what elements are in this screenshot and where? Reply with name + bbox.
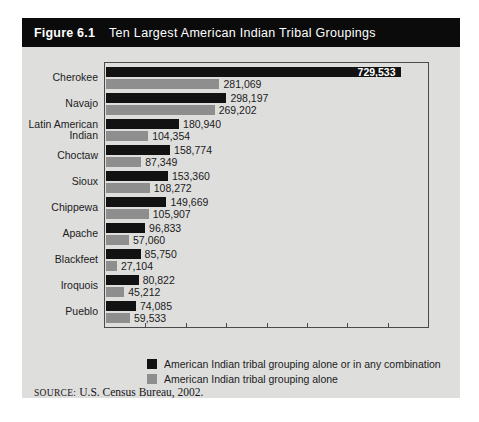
source-note: SOURCE:U.S. Census Bureau, 2002. — [34, 386, 204, 398]
bar-value-label: 74,085 — [140, 300, 172, 312]
x-axis-tick — [186, 323, 187, 327]
bar-value-label: 87,349 — [145, 156, 177, 168]
bar-fill — [106, 119, 179, 129]
bar-fill — [106, 223, 145, 233]
category-label: Sioux — [6, 169, 98, 195]
bar-fill — [106, 313, 130, 323]
chart-bar: 281,069 — [106, 79, 219, 89]
chart-bar: 104,354 — [106, 131, 148, 141]
category-label: Navajo — [6, 91, 98, 117]
x-axis-tick — [428, 323, 429, 327]
category-label: Choctaw — [6, 143, 98, 169]
bar-value-label: 80,822 — [143, 274, 175, 286]
chart-category-row: Choctaw158,77487,349 — [105, 143, 428, 169]
chart-bar: 27,104 — [106, 261, 117, 271]
bar-fill — [106, 249, 141, 259]
chart-category-row: Navajo298,197269,202 — [105, 91, 428, 117]
bar-fill — [106, 171, 168, 181]
bar-value-label: 269,202 — [219, 104, 257, 116]
chart-category-row: Cherokee729,533281,069 — [105, 65, 428, 91]
bar-fill — [106, 301, 136, 311]
category-label: Iroquois — [6, 273, 98, 299]
chart-plot-area: Cherokee729,533281,069Navajo298,197269,2… — [104, 62, 429, 328]
bar-value-label: 729,533 — [358, 66, 396, 78]
chart-category-row: Sioux153,360108,272 — [105, 169, 428, 195]
chart-bar: 180,940 — [106, 119, 179, 129]
bar-value-label: 96,833 — [149, 222, 181, 234]
bar-fill — [106, 131, 148, 141]
chart-bar: 59,533 — [106, 313, 130, 323]
bar-value-label: 45,212 — [128, 286, 160, 298]
bar-fill — [106, 275, 139, 285]
bar-value-label: 108,272 — [154, 182, 192, 194]
chart-category-row: Chippewa149,669105,907 — [105, 195, 428, 221]
bar-fill — [106, 235, 129, 245]
chart-bar: 149,669 — [106, 197, 166, 207]
chart-bar: 96,833 — [106, 223, 145, 233]
bar-fill — [106, 93, 226, 103]
bar-value-label: 281,069 — [223, 78, 261, 90]
x-axis-tick — [145, 323, 146, 327]
chart-bar: 269,202 — [106, 105, 215, 115]
category-label: Blackfeet — [6, 247, 98, 273]
chart-bar: 105,907 — [106, 209, 149, 219]
x-axis-tick — [347, 323, 348, 327]
chart-bar: 108,272 — [106, 183, 150, 193]
bar-fill — [106, 79, 219, 89]
bar-fill — [106, 157, 141, 167]
bar-fill — [106, 183, 150, 193]
x-axis-tick — [307, 323, 308, 327]
legend-label: American Indian tribal grouping alone or… — [164, 358, 441, 370]
legend-item: American Indian tribal grouping alone — [147, 372, 441, 385]
chart-bar: 87,349 — [106, 157, 141, 167]
legend-item: American Indian tribal grouping alone or… — [147, 357, 441, 370]
x-axis-tick — [267, 323, 268, 327]
bar-value-label: 298,197 — [230, 92, 268, 104]
bar-fill — [106, 287, 124, 297]
bar-value-label: 180,940 — [183, 118, 221, 130]
bar-value-label: 27,104 — [121, 260, 153, 272]
category-label: Latin American Indian — [6, 117, 98, 143]
bar-value-label: 85,750 — [145, 248, 177, 260]
chart-bar: 85,750 — [106, 249, 141, 259]
chart-bar: 80,822 — [106, 275, 139, 285]
bar-fill — [106, 197, 166, 207]
chart-legend: American Indian tribal grouping alone or… — [147, 357, 441, 385]
legend-swatch — [147, 359, 157, 369]
x-axis-tick — [226, 323, 227, 327]
chart-bar: 729,533 — [106, 67, 401, 77]
bar-value-label: 153,360 — [172, 170, 210, 182]
bar-fill — [106, 261, 117, 271]
category-label: Apache — [6, 221, 98, 247]
bar-fill — [106, 145, 170, 155]
x-axis-tick — [388, 323, 389, 327]
bar-fill — [106, 67, 401, 77]
chart-category-row: Apache96,83357,060 — [105, 221, 428, 247]
chart-bar: 158,774 — [106, 145, 170, 155]
figure-panel: Figure 6.1 Ten Largest American Indian T… — [22, 18, 460, 398]
bar-value-label: 158,774 — [174, 144, 212, 156]
chart-bar: 74,085 — [106, 301, 136, 311]
chart-bar: 57,060 — [106, 235, 129, 245]
figure-title-bar: Figure 6.1 Ten Largest American Indian T… — [22, 18, 460, 47]
figure-title: Ten Largest American Indian Tribal Group… — [109, 26, 376, 40]
chart-category-row: Blackfeet85,75027,104 — [105, 247, 428, 273]
bar-value-label: 57,060 — [133, 234, 165, 246]
chart-bar: 45,212 — [106, 287, 124, 297]
chart-bar: 298,197 — [106, 93, 226, 103]
bar-value-label: 59,533 — [134, 312, 166, 324]
category-label: Pueblo — [6, 299, 98, 325]
bar-value-label: 104,354 — [152, 130, 190, 142]
category-label: Chippewa — [6, 195, 98, 221]
bar-value-label: 149,669 — [170, 196, 208, 208]
bar-value-label: 105,907 — [153, 208, 191, 220]
source-prefix: SOURCE: — [34, 388, 76, 398]
chart-category-row: Pueblo74,08559,533 — [105, 299, 428, 325]
chart-bar: 153,360 — [106, 171, 168, 181]
bar-fill — [106, 105, 215, 115]
source-text: U.S. Census Bureau, 2002. — [79, 386, 203, 398]
category-label: Cherokee — [6, 65, 98, 91]
legend-swatch — [147, 374, 157, 384]
legend-label: American Indian tribal grouping alone — [164, 373, 338, 385]
bar-fill — [106, 209, 149, 219]
